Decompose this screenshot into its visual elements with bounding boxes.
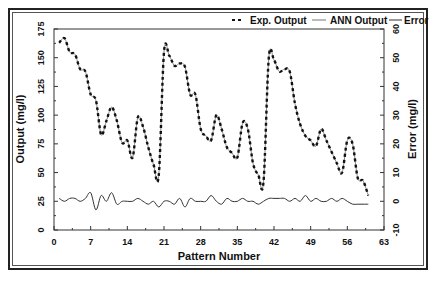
legend-label-error: Error — [404, 15, 429, 26]
x-tick-label: 28 — [196, 237, 206, 247]
x-tick-label: 14 — [122, 237, 132, 247]
x-axis-title: Pattern Number — [178, 250, 261, 262]
x-tick-label: 42 — [269, 237, 279, 247]
y-tick-label-left: 125 — [36, 79, 46, 94]
x-tick-label: 7 — [88, 237, 93, 247]
legend-label-exp-output: Exp. Output — [250, 15, 307, 26]
x-tick-label: 63 — [379, 237, 389, 247]
line-chart: 0255075100125150175 -100102030405060 071… — [0, 0, 438, 283]
y-tick-label-left: 25 — [36, 196, 46, 206]
y-tick-label-left: 75 — [36, 139, 46, 149]
legend-label-ann-output: ANN Output — [330, 15, 388, 26]
y-tick-label-right: 20 — [391, 139, 401, 149]
y-axis-title-right: Error (mg/l) — [406, 99, 418, 159]
y-tick-label-right: 40 — [391, 81, 401, 91]
y-tick-label-right: 50 — [391, 53, 401, 63]
y-tick-label-right: 30 — [391, 110, 401, 120]
y-tick-label-right: -10 — [391, 223, 401, 236]
x-tick-label: 56 — [342, 237, 352, 247]
y-tick-label-left: 100 — [36, 108, 46, 123]
y-tick-label-right: 10 — [391, 168, 401, 178]
x-tick-label: 49 — [306, 237, 316, 247]
y-tick-label-right: 0 — [391, 199, 401, 204]
y-tick-label-left: 0 — [36, 227, 46, 232]
x-tick-label: 0 — [51, 237, 56, 247]
y-tick-label-left: 50 — [36, 168, 46, 178]
x-tick-label: 35 — [232, 237, 242, 247]
y-tick-label-right: 60 — [391, 24, 401, 34]
x-tick-label: 21 — [159, 237, 169, 247]
y-tick-label-left: 175 — [36, 21, 46, 36]
y-tick-label-left: 150 — [36, 50, 46, 65]
y-axis-title-left: Output (mg/l) — [14, 94, 26, 163]
